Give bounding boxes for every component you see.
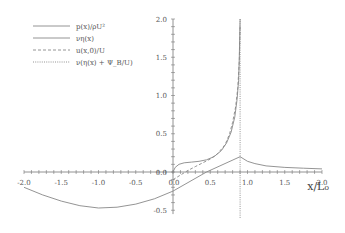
chart: p(x)/ρU²νη(x)u(x,0)/Uν(η(x) + Ψ_B/U) -2.… (0, 0, 345, 233)
series-line-2 (173, 27, 240, 180)
legend-label: p(x)/ρU² (76, 23, 105, 31)
x-tick-label: 1.5 (279, 179, 290, 187)
x-tick-label: 0.5 (205, 179, 216, 187)
y-tick-label: -0.5 (154, 207, 168, 215)
x-tick-label: 0.0 (168, 179, 179, 187)
y-tick-label: 1.0 (156, 92, 167, 100)
x-tick-label: -1.0 (92, 179, 106, 187)
legend-label: u(x,0)/U (76, 47, 105, 55)
x-tick-label: -1.5 (55, 179, 69, 187)
series-line-0 (173, 19, 240, 172)
legend-label: νη(x) (76, 35, 94, 43)
legend-label: ν(η(x) + Ψ_B/U) (76, 59, 133, 67)
y-tick-label: 0.5 (156, 130, 167, 138)
y-tick-label: 0.0 (156, 169, 167, 177)
x-tick-label: -0.5 (129, 179, 143, 187)
axes: -2.0-1.5-1.0-0.50.00.51.01.52.0-0.50.00.… (17, 16, 327, 215)
x-tick-label: -2.0 (17, 179, 31, 187)
legend: p(x)/ρU²νη(x)u(x,0)/Uν(η(x) + Ψ_B/U) (33, 23, 133, 67)
y-tick-label: 1.5 (156, 54, 167, 62)
x-axis-title: x/L₀ (307, 180, 329, 193)
x-tick-label: 1.0 (242, 179, 253, 187)
y-tick-label: 2.0 (156, 16, 167, 24)
